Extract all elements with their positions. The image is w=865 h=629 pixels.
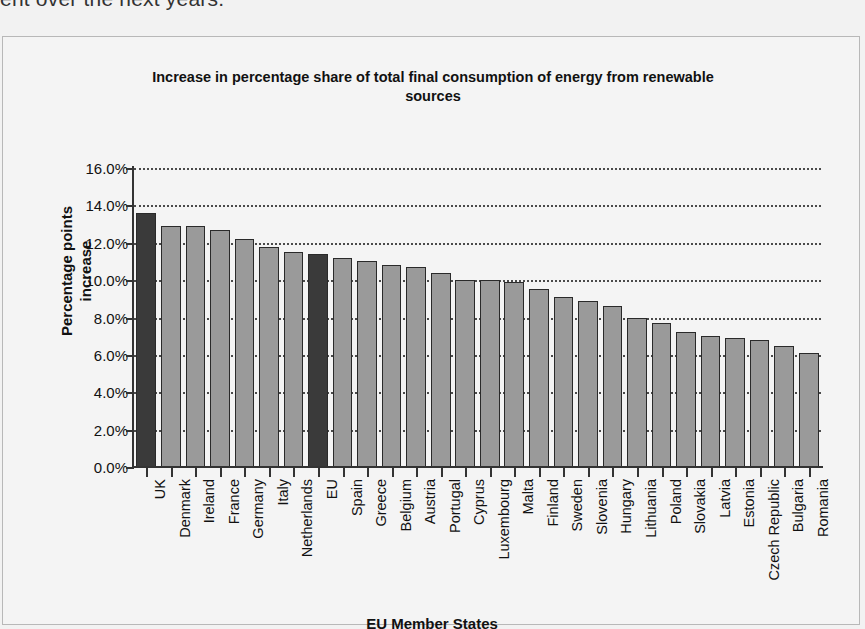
bar[interactable]: [774, 346, 794, 467]
y-axis-tick-label: 6.0%: [94, 346, 128, 363]
x-axis-tick-label: Finland: [545, 479, 561, 527]
x-axis-tick-mark: [735, 468, 737, 477]
x-axis-tick-label: Malta: [520, 479, 536, 514]
y-axis-tick-mark: [126, 392, 133, 394]
x-axis-tick-mark: [367, 468, 369, 477]
bar[interactable]: [431, 273, 451, 467]
x-axis-tick-label: Greece: [373, 479, 389, 527]
y-axis-tick-mark: [126, 243, 133, 245]
x-axis-tick-label: Cyprus: [471, 479, 487, 525]
gridline: [134, 205, 821, 207]
bar[interactable]: [578, 301, 598, 467]
bar[interactable]: [652, 323, 672, 467]
x-axis-tick-mark: [465, 468, 467, 477]
bar[interactable]: [357, 261, 377, 467]
y-axis-tick-label: 12.0%: [85, 234, 128, 251]
x-axis-tick-label: Lithuania: [643, 479, 659, 538]
y-axis-tick-labels: 0.0%2.0%4.0%6.0%8.0%10.0%12.0%14.0%16.0%: [63, 37, 128, 597]
bar[interactable]: [235, 239, 255, 467]
bar[interactable]: [259, 247, 279, 468]
x-axis-tick-label: Hungary: [618, 479, 634, 534]
x-axis-tick-mark: [662, 468, 664, 477]
bar[interactable]: [186, 226, 206, 467]
x-axis-tick-mark: [146, 468, 148, 477]
x-axis-tick-mark: [490, 468, 492, 477]
x-axis-tick-labels: UKDenmarkIrelandFranceGermanyItalyNether…: [134, 479, 821, 619]
y-axis-tick-mark: [126, 168, 133, 170]
x-axis-tick-mark: [392, 468, 394, 477]
x-axis-tick-mark: [563, 468, 565, 477]
x-axis-tick-label: Austria: [422, 479, 438, 524]
bar[interactable]: [480, 280, 500, 467]
bar[interactable]: [333, 258, 353, 467]
x-axis-tick-label: EU: [324, 479, 340, 499]
x-axis-tick-label: Denmark: [177, 479, 193, 538]
x-axis-tick-mark: [637, 468, 639, 477]
x-axis-tick-mark: [539, 468, 541, 477]
x-axis-tick-label: Slovakia: [692, 479, 708, 534]
x-axis-title: EU Member States: [3, 615, 861, 629]
y-axis-tick-mark: [126, 318, 133, 320]
bar[interactable]: [676, 332, 696, 467]
x-axis-tick-label: Slovenia: [594, 479, 610, 535]
x-axis-tick-label: UK: [152, 479, 168, 499]
bar[interactable]: [161, 226, 181, 467]
x-axis-tick-mark: [269, 468, 271, 477]
x-axis-tick-mark: [416, 468, 418, 477]
x-axis-tick-label: Estonia: [741, 479, 757, 527]
bar[interactable]: [382, 265, 402, 467]
plot-area: [134, 168, 821, 467]
y-axis-tick-label: 10.0%: [85, 272, 128, 289]
bar[interactable]: [627, 318, 647, 468]
y-axis-tick-mark: [126, 280, 133, 282]
x-axis-tick-label: France: [226, 479, 242, 524]
x-axis-tick-label: Czech Republic: [766, 479, 782, 581]
x-axis-tick-mark: [220, 468, 222, 477]
bar[interactable]: [406, 267, 426, 467]
x-axis-tick-label: Luxembourg: [496, 479, 512, 560]
x-axis-tick-label: Portugal: [447, 479, 463, 533]
y-axis-tick-label: 16.0%: [85, 160, 128, 177]
x-axis-tick-label: Latvia: [717, 479, 733, 518]
chart-title: Increase in percentage share of total fi…: [123, 68, 743, 106]
y-axis-tick-label: 8.0%: [94, 309, 128, 326]
bar[interactable]: [799, 353, 819, 467]
x-axis-tick-label: Netherlands: [299, 479, 315, 557]
x-axis-tick-mark: [809, 468, 811, 477]
x-axis-tick-label: Germany: [250, 479, 266, 539]
x-axis-tick-mark: [171, 468, 173, 477]
bar[interactable]: [284, 252, 304, 467]
y-axis-tick-label: 2.0%: [94, 421, 128, 438]
x-axis-tick-label: Poland: [668, 479, 684, 524]
x-axis-tick-mark: [612, 468, 614, 477]
y-axis-tick-label: 14.0%: [85, 197, 128, 214]
chart-container: Increase in percentage share of total fi…: [2, 36, 860, 625]
bar[interactable]: [308, 254, 328, 467]
bar[interactable]: [136, 213, 156, 467]
x-axis-tick-mark: [784, 468, 786, 477]
x-axis-tick-label: Sweden: [569, 479, 585, 531]
y-axis-tick-mark: [126, 430, 133, 432]
x-axis-tick-label: Bulgaria: [790, 479, 806, 532]
x-axis-tick-label: Belgium: [398, 479, 414, 531]
bar[interactable]: [725, 338, 745, 467]
gridline: [134, 168, 821, 170]
bar[interactable]: [504, 282, 524, 467]
bar[interactable]: [554, 297, 574, 467]
x-axis-tick-mark: [514, 468, 516, 477]
y-axis-tick-label: 4.0%: [94, 384, 128, 401]
x-axis-tick-label: Italy: [275, 479, 291, 506]
x-axis-tick-mark: [293, 468, 295, 477]
bar[interactable]: [529, 289, 549, 467]
bar[interactable]: [210, 230, 230, 467]
y-axis-tick-label: 0.0%: [94, 459, 128, 476]
bar[interactable]: [750, 340, 770, 467]
x-axis-tick-label: Ireland: [201, 479, 217, 523]
x-axis-tick-mark: [343, 468, 345, 477]
document-partial-text: ent over the next years.: [0, 0, 400, 13]
x-axis-tick-mark: [441, 468, 443, 477]
bar[interactable]: [603, 306, 623, 467]
bar[interactable]: [455, 280, 475, 467]
x-axis-tick-marks: [134, 468, 821, 478]
bar[interactable]: [701, 336, 721, 467]
